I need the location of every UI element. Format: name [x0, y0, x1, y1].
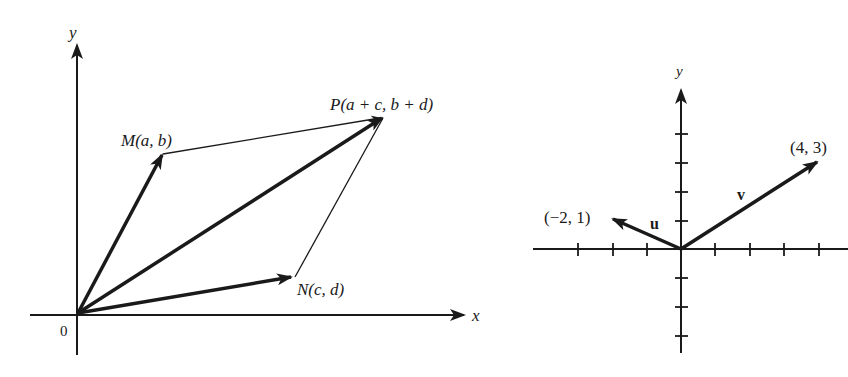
point-n-label: N(c, d) — [296, 280, 345, 299]
vector-v-label: v — [737, 186, 745, 203]
vector-on — [78, 277, 291, 313]
y-axis-label: y — [67, 23, 77, 42]
point-p-label: P(a + c, b + d) — [329, 95, 434, 114]
point-v-label: (4, 3) — [790, 138, 827, 157]
point-m-label: M(a, b) — [120, 131, 172, 150]
right-y-axis-label: y — [674, 63, 683, 79]
vector-v — [681, 162, 817, 249]
edge-m-to-p — [163, 118, 380, 154]
vector-addition-figure: x y 0 M(a, b) P(a + c, b + d) N(c, d) y — [0, 0, 848, 377]
left-diagram: x y 0 M(a, b) P(a + c, b + d) N(c, d) — [30, 23, 480, 355]
right-diagram: y (−2, 1) u v (4, 3) — [533, 63, 848, 353]
point-u-label: (−2, 1) — [544, 208, 590, 227]
vector-om — [78, 155, 162, 313]
edge-n-to-p — [295, 118, 383, 277]
vector-u-label: u — [650, 215, 659, 232]
origin-label: 0 — [60, 323, 68, 339]
x-axis-label: x — [471, 306, 480, 325]
